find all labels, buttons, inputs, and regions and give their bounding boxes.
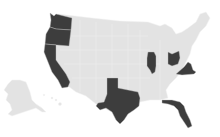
us-map: [0, 0, 220, 137]
us-map-svg: [0, 0, 220, 137]
state-ohio[interactable]: [168, 51, 180, 66]
state-alaska[interactable]: [4, 80, 46, 116]
state-hawaii[interactable]: [43, 94, 61, 105]
state-florida[interactable]: [162, 100, 192, 128]
state-oregon[interactable]: [45, 27, 71, 46]
